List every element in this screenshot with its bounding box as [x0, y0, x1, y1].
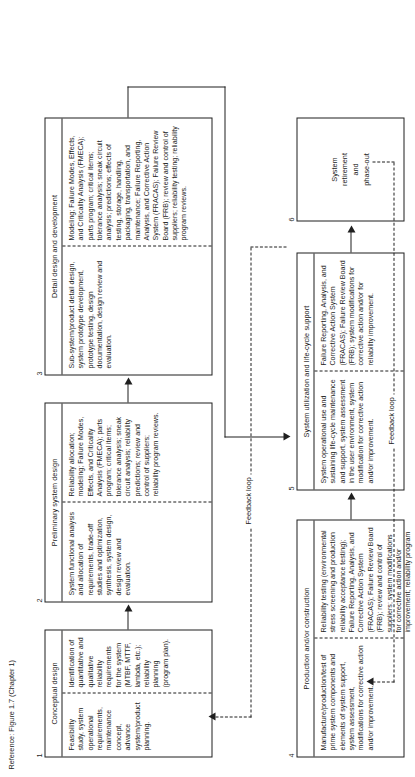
arrowhead-1-to-2	[124, 604, 132, 611]
flowchart-canvas: Reference: Figure 1.7 (Chapter 1) 1 Conc…	[0, 0, 415, 777]
box-body-3: Sub-system/product detail design, system…	[62, 118, 211, 374]
reference-note: Reference: Figure 1.7 (Chapter 1)	[6, 659, 15, 769]
connector-1-to-2	[127, 609, 128, 629]
connector-5-to-6	[350, 230, 351, 252]
box-bottom-text-2: Reliability allocation; modeling; Failur…	[62, 403, 211, 502]
feedback-label-lower: Feedback loop	[386, 394, 395, 447]
feedback-label-upper: Feedback loop	[243, 474, 252, 527]
box-bottom-text-3: Modeling; Failure Modes, Effects, and Cr…	[62, 118, 211, 246]
box-top-text-1: Feasibility study, system operational re…	[62, 693, 211, 756]
connector-4-to-5	[350, 497, 351, 519]
box-title-4: Production and/or construction	[297, 520, 314, 756]
arrowhead-4-to-5	[347, 492, 355, 499]
box-number-1: 1	[34, 753, 43, 757]
box-number-5: 5	[286, 486, 295, 490]
box-title-5: System utilization and life-cycle suppor…	[297, 253, 314, 489]
box-title-1: Conceptual design	[45, 630, 62, 756]
arrowhead-2-to-3	[124, 377, 132, 384]
box-number-6: 6	[286, 217, 295, 221]
terminal-line-4: phase-out	[361, 153, 372, 185]
box-title-2: Preliminary system design	[45, 403, 62, 601]
arrowhead-5-to-6	[347, 225, 355, 232]
box-body-4: Manufacture/production/test of prime sys…	[314, 520, 403, 756]
feedback-loop-upper-left-riser	[215, 716, 251, 717]
box-top-text-2: System functional analysis and allocatio…	[62, 502, 211, 601]
terminal-line-3: and	[350, 163, 361, 175]
feedback-loop-lower-left-riser	[372, 681, 394, 682]
box-number-3: 3	[34, 371, 43, 375]
box-body-2: System functional analysis and allocatio…	[62, 403, 211, 601]
connector-2-to-3	[127, 382, 128, 402]
figure-stage: Reference: Figure 1.7 (Chapter 1) 1 Conc…	[0, 0, 415, 777]
stage-box-system-utilization-life-cycle-support[interactable]: System utilization and life-cycle suppor…	[296, 252, 404, 490]
box-bottom-text-5: Failure Reporting, Analysis, and Correct…	[314, 253, 403, 371]
stage-box-production-and-construction[interactable]: Production and/or construction Manufactu…	[296, 519, 404, 757]
arrowhead-feedback-lower	[366, 678, 373, 686]
stage-box-conceptual-design[interactable]: Conceptual design Feasibility study, sys…	[44, 629, 212, 757]
terminal-line-2: retirement	[339, 153, 350, 186]
feedback-loop-lower-right-riser	[372, 161, 394, 162]
connector-3-to-4-vertical	[224, 436, 287, 437]
box-top-text-4: Manufacture/production/test of prime sys…	[314, 638, 403, 756]
stage-box-detail-design-and-development[interactable]: Detail design and development Sub-system…	[44, 117, 212, 375]
connector-3-wrap-vertical	[127, 86, 225, 87]
box-top-text-3: Sub-system/product detail design, system…	[62, 246, 211, 374]
box-number-4: 4	[286, 753, 295, 757]
feedback-loop-upper-right-riser	[250, 246, 286, 247]
connector-3-wrap-horizontal	[127, 86, 128, 117]
stage-box-system-retirement-phase-out[interactable]: System retirement and phase-out	[296, 117, 404, 221]
box-body-1: Feasibility study, system operational re…	[62, 630, 211, 756]
box-number-2: 2	[34, 598, 43, 602]
box-body-5: System operational use and sustaining li…	[314, 253, 403, 489]
box-title-3: Detail design and development	[45, 118, 62, 374]
terminal-line-1: System	[329, 157, 340, 181]
arrowhead-3-to-4	[283, 433, 290, 441]
stage-box-preliminary-system-design[interactable]: Preliminary system design System functio…	[44, 402, 212, 602]
connector-3-to-4-horizontal	[224, 86, 225, 437]
arrowhead-feedback-upper	[208, 713, 215, 721]
box-bottom-text-1: Identification of quantitative and quali…	[62, 630, 211, 693]
box-bottom-text-4: Reliability testing (environmental stres…	[314, 520, 403, 638]
